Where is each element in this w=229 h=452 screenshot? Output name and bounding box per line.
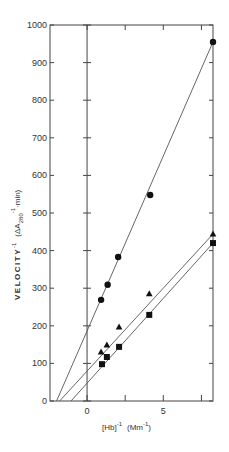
x-axis-ticks: 05	[85, 25, 202, 416]
y-tick-label: 600	[32, 170, 47, 180]
y-tick-label: 700	[32, 133, 47, 143]
y-tick-label: 900	[32, 58, 47, 68]
y-tick-label: 400	[32, 246, 47, 256]
x-axis-label: [Hb]-1(Mm-1)	[102, 421, 151, 432]
triangles-fit-line	[60, 234, 213, 401]
circle-marker	[98, 297, 104, 303]
y-tick-label: 300	[32, 283, 47, 293]
squares-fit-line	[71, 243, 213, 401]
triangle-marker	[146, 290, 153, 296]
square-marker	[104, 354, 110, 360]
y-tick-label: 800	[32, 95, 47, 105]
circle-marker	[210, 39, 216, 45]
triangle-marker	[98, 349, 105, 355]
square-marker	[116, 344, 122, 350]
triangle-marker	[116, 323, 123, 329]
triangle-marker	[210, 231, 217, 237]
plot-frame	[50, 25, 213, 401]
square-marker	[146, 312, 152, 318]
y-tick-label: 500	[32, 208, 47, 218]
plot-border	[50, 25, 213, 401]
circle-marker	[104, 282, 110, 288]
fit-lines	[57, 42, 213, 401]
data-points	[98, 39, 217, 367]
y-tick-label: 0	[42, 396, 47, 406]
lineweaver-burk-chart: 01002003004005006007008009001000 05 [Hb]…	[0, 0, 229, 452]
x-tick-label: 0	[85, 406, 90, 416]
circle-marker	[115, 254, 121, 260]
circle-marker	[147, 192, 153, 198]
y-tick-label: 100	[32, 358, 47, 368]
square-marker	[99, 361, 105, 367]
circles-fit-line	[57, 42, 213, 401]
x-tick-label: 5	[161, 406, 166, 416]
triangle-marker	[104, 341, 111, 347]
y-tick-label: 200	[32, 321, 47, 331]
square-marker	[210, 240, 216, 246]
y-tick-label: 1000	[27, 20, 47, 30]
y-axis-label: VELOCITY-1(ΔA280-1·min)	[10, 189, 24, 300]
